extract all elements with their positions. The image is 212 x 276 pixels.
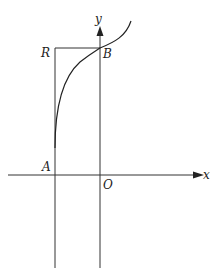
point-A-label: A <box>41 160 51 174</box>
diagram-canvas: y x R B A O <box>0 0 212 276</box>
origin-O-label: O <box>103 178 113 192</box>
point-R-label: R <box>40 46 50 60</box>
y-axis-label: y <box>94 12 102 26</box>
x-axis-label: x <box>203 168 210 182</box>
curve <box>55 21 131 148</box>
point-B-label: B <box>102 47 112 61</box>
y-axis-arrow-icon <box>97 26 104 36</box>
diagram-figure: y x R B A O <box>0 0 212 276</box>
